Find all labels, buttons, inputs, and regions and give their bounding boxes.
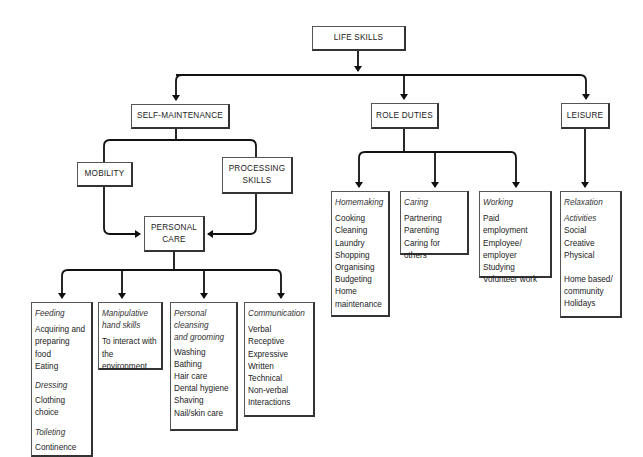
cleansing-item: Bathing — [174, 359, 232, 371]
homemaking-item: Laundry — [335, 238, 384, 250]
homemaking-item: Home — [335, 286, 384, 298]
personal-care-node: PERSONAL CARE — [144, 216, 205, 252]
working-box: Working Paid employment Employee/ employ… — [479, 191, 552, 278]
cleansing-item: Washing — [174, 347, 232, 359]
toileting-heading: Toileting — [35, 427, 87, 439]
leisure-item: community — [564, 286, 616, 298]
caring-heading: Caring — [404, 197, 463, 209]
feeding-item: Eating — [35, 361, 87, 373]
feeding-item: preparing food — [35, 336, 87, 360]
role-duties-node: ROLE DUTIES — [371, 103, 439, 129]
life-skills-label: LIFE SKILLS — [334, 32, 384, 44]
processing-skills-node: PROCESSING SKILLS — [222, 157, 293, 194]
cleansing-item: Shaving — [174, 395, 232, 407]
personal-care-label-line2: CARE — [162, 234, 186, 246]
cleansing-item: Nail/skin care — [174, 408, 232, 420]
self-maintenance-node: SELF-MAINTENANCE — [131, 104, 230, 129]
homemaking-heading: Homemaking — [335, 197, 384, 209]
cleansing-item: Dental hygiene — [174, 383, 232, 395]
communication-box: Communication Verbal Receptive Expressiv… — [244, 302, 315, 417]
manipulative-box: Manipulative hand skills To interact wit… — [98, 302, 163, 370]
caring-item: Parenting — [404, 225, 463, 237]
activities-item: Creative — [564, 238, 616, 250]
activities-heading: Activities — [564, 213, 616, 225]
working-item: Studying — [483, 262, 546, 274]
feeding-box: Feeding Acquiring and preparing food Eat… — [31, 302, 93, 457]
caring-item: Partnering — [404, 213, 463, 225]
working-heading: Working — [483, 197, 546, 209]
working-item: Paid employment — [483, 213, 546, 237]
communication-item: Verbal — [248, 324, 309, 336]
homemaking-item: Organising — [335, 262, 384, 274]
working-item: Volunteer work — [483, 274, 546, 286]
homemaking-item: Budgeting — [335, 274, 384, 286]
feeding-item: Acquiring and — [35, 324, 87, 336]
toileting-item: Continence — [35, 442, 87, 454]
mobility-node: MOBILITY — [77, 162, 133, 187]
cleansing-item: Hair care — [174, 371, 232, 383]
leisure-label: LEISURE — [567, 110, 603, 122]
leisure-item: Home based/ — [564, 274, 616, 286]
cleansing-heading-line1: Personal — [174, 308, 232, 320]
dressing-item: Clothing — [35, 395, 87, 407]
manipulative-heading-line2: hand skills — [102, 320, 157, 332]
role-duties-label: ROLE DUTIES — [376, 110, 433, 122]
manipulative-item: To interact with — [102, 336, 157, 348]
homemaking-box: Homemaking Cooking Cleaning Laundry Shop… — [331, 191, 390, 317]
dressing-heading: Dressing — [35, 380, 87, 392]
cleansing-box: Personal cleansing and grooming Washing … — [170, 302, 238, 431]
dressing-item: choice — [35, 407, 87, 419]
cleansing-heading-line3: and grooming — [174, 332, 232, 344]
communication-item: Technical — [248, 373, 309, 385]
processing-label-line1: PROCESSING — [229, 163, 286, 175]
communication-item: Interactions — [248, 397, 309, 409]
working-item: employer — [483, 250, 546, 262]
feeding-heading: Feeding — [35, 308, 87, 320]
homemaking-item: Cleaning — [335, 225, 384, 237]
self-maintenance-label: SELF-MAINTENANCE — [137, 110, 223, 122]
manipulative-item: the environment — [102, 349, 157, 373]
cleansing-heading-line2: cleansing — [174, 320, 232, 332]
communication-item: Written — [248, 361, 309, 373]
homemaking-item: Cooking — [335, 213, 384, 225]
working-item: Employee/ — [483, 238, 546, 250]
communication-item: Non-verbal — [248, 385, 309, 397]
leisure-item: Holidays — [564, 298, 616, 310]
personal-care-label-line1: PERSONAL — [151, 222, 197, 234]
leisure-node: LEISURE — [561, 103, 610, 129]
communication-item: Expressive — [248, 349, 309, 361]
relaxation-heading: Relaxation — [564, 197, 616, 209]
caring-item: Caring for others — [404, 238, 463, 262]
communication-item: Receptive — [248, 336, 309, 348]
life-skills-node: LIFE SKILLS — [312, 26, 406, 51]
communication-heading: Communication — [248, 308, 309, 320]
activities-item: Social — [564, 225, 616, 237]
relaxation-box: Relaxation Activities Social Creative Ph… — [560, 191, 622, 318]
homemaking-item: Shopping — [335, 250, 384, 262]
mobility-label: MOBILITY — [85, 168, 125, 180]
caring-box: Caring Partnering Parenting Caring for o… — [400, 191, 469, 255]
activities-item: Physical — [564, 250, 616, 262]
homemaking-item: maintenance — [335, 299, 384, 311]
manipulative-heading-line1: Manipulative — [102, 308, 157, 320]
processing-label-line2: SKILLS — [243, 175, 272, 187]
